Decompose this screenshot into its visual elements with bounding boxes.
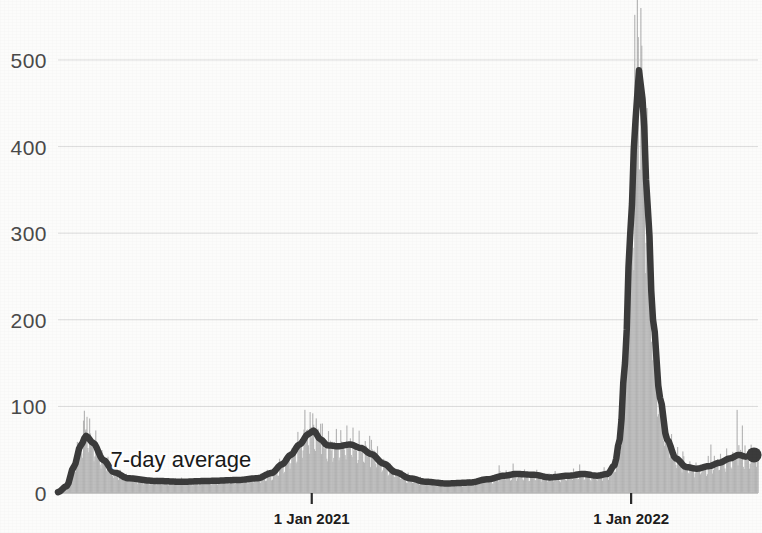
y-axis-labels-group: 0100200300400500	[10, 49, 47, 505]
chart-container: 0100200300400500 1 Jan 20211 Jan 2022 7-…	[0, 0, 762, 533]
y-axis-tick-label: 200	[10, 309, 47, 332]
x-axis-tick-label: 1 Jan 2022	[593, 510, 669, 527]
y-axis-tick-label: 100	[10, 395, 47, 418]
daily-bars-series	[58, 0, 759, 493]
y-axis-tick-label: 0	[35, 482, 47, 505]
y-axis-tick-label: 400	[10, 136, 47, 159]
seven-day-average-annotation: 7-day average	[111, 447, 252, 472]
series-end-marker	[747, 447, 762, 462]
x-axis-tick-label: 1 Jan 2021	[274, 510, 350, 527]
x-axis-ticks-group	[312, 493, 631, 504]
y-axis-tick-label: 300	[10, 222, 47, 245]
x-axis-labels-group: 1 Jan 20211 Jan 2022	[274, 510, 669, 527]
y-axis-tick-label: 500	[10, 49, 47, 72]
covid-cases-chart: 0100200300400500 1 Jan 20211 Jan 2022 7-…	[0, 0, 762, 533]
